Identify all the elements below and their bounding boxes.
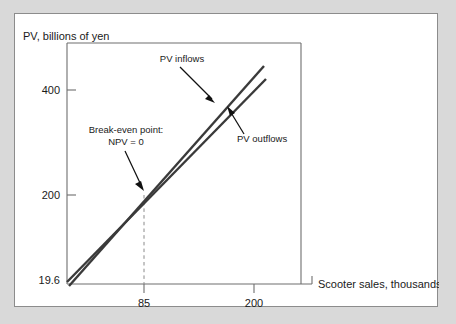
series-line-pv-outflows: [67, 79, 266, 282]
x-axis-title: Scooter sales, thousands: [318, 278, 439, 290]
break-even-chart: PV, billions of yen 400 200 19.6 85 200 …: [15, 14, 437, 306]
series-line-pv-inflows: [69, 66, 264, 286]
y-tick-label-200: 200: [42, 189, 60, 201]
y-tick-label-19-6: 19.6: [39, 274, 60, 286]
x-tick-label-85: 85: [138, 297, 150, 308]
break-even-label-line1: Break-even point:: [89, 124, 163, 135]
y-axis-title: PV, billions of yen: [23, 30, 109, 42]
y-tick-label-400: 400: [42, 84, 60, 96]
break-even-label-line2: NPV = 0: [108, 136, 144, 147]
pv-inflows-label: PV inflows: [160, 53, 205, 64]
break-even-arrow-head: [135, 181, 144, 191]
break-even-arrow-shaft: [125, 151, 141, 185]
pv-outflows-label: PV outflows: [237, 133, 287, 144]
figure-card: PV, billions of yen 400 200 19.6 85 200 …: [14, 13, 438, 307]
chart-svg: PV, billions of yen 400 200 19.6 85 200 …: [15, 14, 439, 308]
x-tick-label-200: 200: [245, 297, 263, 308]
pv-inflows-arrow-shaft: [180, 67, 212, 99]
